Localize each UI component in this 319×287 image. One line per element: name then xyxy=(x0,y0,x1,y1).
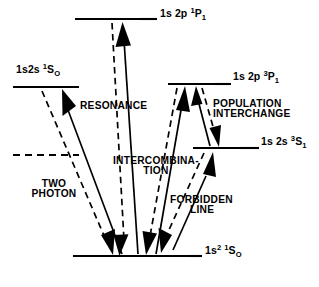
process-label-population-interchange: POPULATION INTERCHANGE xyxy=(213,99,290,120)
process-label-forbidden-line-line2: LINE xyxy=(190,205,233,215)
transition-resonance-excitation-line xyxy=(124,40,138,254)
transition-intercombination-emission-arrowhead xyxy=(143,231,158,255)
transition-population-interchange-up-arrowhead xyxy=(191,86,203,106)
process-label-intercombination-line2: TION xyxy=(113,166,199,176)
level-label-ground-1s2-1S0: 1s2 1SO xyxy=(205,245,242,256)
transition-resonance-emission-line xyxy=(112,23,124,240)
process-label-intercombination: INTERCOMBINA- TION xyxy=(113,156,199,177)
energy-level-diagram: 1s 2p 1P1 1s2s 1SO 1s 2p 3P1 1s 2s 3S1 1… xyxy=(0,0,319,287)
transition-two-photon-emission-line xyxy=(42,91,105,238)
process-label-forbidden-line: FORBIDDEN LINE xyxy=(170,195,233,216)
transition-forbidden-excitation-arrowhead xyxy=(203,152,216,177)
transition-resonance xyxy=(112,22,138,256)
level-label-1s2p-1P1: 1s 2p 1P1 xyxy=(160,8,206,19)
level-label-1s2s-3S1: 1s 2s 3S1 xyxy=(261,136,307,147)
transition-forbidden-emission-arrowhead xyxy=(159,228,173,253)
level-label-1s2s-1S0: 1s2s 1SO xyxy=(16,64,60,75)
process-label-resonance-line1: RESONANCE xyxy=(80,101,147,111)
process-label-resonance: RESONANCE xyxy=(80,101,147,111)
process-label-population-interchange-line2: INTERCHANGE xyxy=(213,109,290,119)
transition-two-photon xyxy=(42,89,122,255)
transition-population-interchange-down-arrowhead xyxy=(210,125,222,147)
process-label-two-photon: TWO PHOTON xyxy=(21,179,87,200)
level-label-1s2p-3P1: 1s 2p 3P1 xyxy=(233,71,279,82)
process-label-two-photon-line2: PHOTON xyxy=(21,189,87,199)
transition-intercombination-excitation-arrowhead xyxy=(176,86,190,112)
transition-resonance-excitation-arrowhead xyxy=(116,22,132,47)
